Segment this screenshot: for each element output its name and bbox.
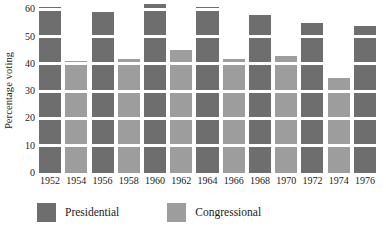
bar-1960 — [144, 4, 166, 173]
x-axis-tick-1976: 1976 — [352, 176, 378, 186]
bar-1954 — [65, 61, 87, 173]
y-axis-title-text: Percentage voting — [4, 51, 15, 128]
y-axis-tick-0: 0 — [30, 168, 35, 178]
x-axis-tick-1952: 1952 — [37, 176, 63, 186]
x-axis-tick-1972: 1972 — [299, 176, 325, 186]
x-axis-tick-1956: 1956 — [89, 176, 115, 186]
legend-label-congressional: Congressional — [195, 206, 261, 218]
legend-label-presidential: Presidential — [65, 206, 119, 218]
bar-1974 — [328, 78, 350, 173]
x-axis-tick-1958: 1958 — [116, 176, 142, 186]
bar-1958 — [118, 59, 140, 173]
x-axis-tick-labels: 1952195419561958196019621964196619681970… — [37, 176, 378, 191]
bar-1972 — [301, 23, 323, 173]
legend-swatch-congressional — [167, 203, 186, 222]
bar-1966 — [223, 59, 245, 173]
x-axis-tick-1968: 1968 — [247, 176, 273, 186]
legend-item-congressional: Congressional — [167, 203, 261, 222]
y-axis-tick-10: 10 — [25, 141, 35, 151]
bars-layer — [37, 4, 378, 173]
x-axis-tick-1962: 1962 — [168, 176, 194, 186]
plot-area — [37, 4, 378, 173]
voter-turnout-bar-chart: Percentage voting 0102030405060 19521954… — [0, 0, 386, 247]
bar-1952 — [39, 7, 61, 173]
x-axis-tick-1974: 1974 — [326, 176, 352, 186]
legend-swatch-presidential — [37, 203, 56, 222]
y-axis-tick-60: 60 — [25, 4, 35, 14]
y-axis-tick-40: 40 — [25, 59, 35, 69]
bar-1970 — [275, 56, 297, 173]
x-axis-tick-1954: 1954 — [63, 176, 89, 186]
chart-legend: Presidential Congressional — [37, 200, 261, 224]
y-axis-tick-30: 30 — [25, 86, 35, 96]
y-axis-tick-50: 50 — [25, 32, 35, 42]
legend-item-presidential: Presidential — [37, 203, 119, 222]
y-axis-tick-labels: 0102030405060 — [16, 4, 35, 173]
x-axis-tick-1966: 1966 — [221, 176, 247, 186]
y-axis-tick-20: 20 — [25, 113, 35, 123]
x-axis-tick-1960: 1960 — [142, 176, 168, 186]
bar-1976 — [354, 26, 376, 173]
x-axis-tick-1970: 1970 — [273, 176, 299, 186]
x-axis-tick-1964: 1964 — [194, 176, 220, 186]
bar-1962 — [170, 50, 192, 173]
bar-1956 — [92, 12, 114, 173]
bar-1968 — [249, 15, 271, 173]
bar-1964 — [196, 7, 218, 173]
